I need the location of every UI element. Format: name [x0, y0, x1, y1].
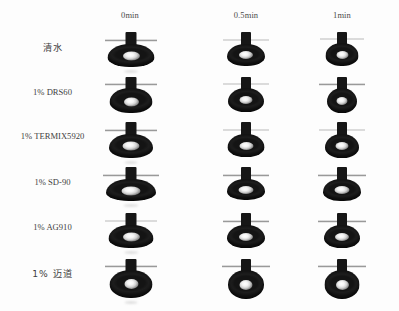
- droplet-highlight: [123, 52, 140, 61]
- droplet-body: [228, 270, 264, 299]
- droplet-body: [227, 44, 265, 66]
- row-label-2: 1% TERMIX5920: [0, 131, 105, 141]
- droplet-cell-inner: [105, 117, 157, 157]
- droplet-cell: [105, 208, 157, 248]
- row-label-1: 1% DRS60: [0, 87, 105, 97]
- droplet-body: [228, 134, 265, 157]
- row-label-0: 清水: [0, 40, 105, 54]
- droplet-body: [109, 225, 154, 248]
- droplet-cell-inner: [223, 162, 269, 202]
- droplet-highlight: [336, 51, 348, 59]
- droplet-highlight: [123, 232, 140, 241]
- droplet-cell-inner: [318, 162, 366, 202]
- droplet-highlight: [124, 97, 139, 106]
- droplet-cell: [103, 162, 159, 202]
- droplet-cell-inner: [223, 117, 269, 157]
- droplet-cell: [223, 72, 269, 112]
- droplet-cell: [222, 255, 270, 297]
- droplet-body: [228, 88, 264, 112]
- droplet-highlight: [335, 233, 349, 241]
- droplet-body: [324, 225, 360, 248]
- droplet-cell: [318, 208, 366, 248]
- droplet-cell: [319, 72, 365, 112]
- droplet-cell: [223, 162, 269, 202]
- droplet-highlight: [239, 233, 253, 241]
- droplet-cell-inner: [320, 26, 364, 66]
- droplet-highlight: [123, 142, 140, 151]
- droplet-body: [106, 179, 156, 201]
- droplet-body: [110, 88, 153, 113]
- droplet-cell: [319, 117, 365, 157]
- droplet-cell-inner: [222, 255, 270, 297]
- droplet-body: [108, 44, 155, 67]
- droplet-body: [326, 43, 359, 66]
- droplet-highlight: [239, 186, 254, 194]
- droplet-cell: [223, 208, 269, 248]
- droplet-body: [323, 179, 361, 201]
- droplet-highlight: [335, 186, 350, 194]
- droplet-body: [110, 270, 153, 298]
- droplet-cell-inner: [223, 26, 269, 66]
- droplet-contact-angle-figure: 0min0.5min1min 清水1% DRS601% TERMIX59201%…: [0, 0, 399, 311]
- droplet-body: [325, 134, 359, 158]
- droplet-highlight: [240, 280, 253, 290]
- droplet-cell: [318, 162, 366, 202]
- droplet-shadow-smear: [124, 204, 139, 207]
- droplet-cell-inner: [103, 162, 159, 202]
- droplet-shadow-smear: [125, 301, 138, 304]
- row-label-5: 1% 迈道: [0, 266, 105, 280]
- droplet-cell-inner: [105, 26, 157, 66]
- droplet-body: [327, 88, 357, 113]
- droplet-cell: [223, 117, 269, 157]
- droplet-cell: [105, 26, 157, 66]
- droplet-cell-inner: [319, 72, 365, 112]
- column-header-1: 0.5min: [234, 10, 258, 20]
- row-label-4: 1% AG910: [0, 222, 105, 232]
- droplet-highlight: [336, 280, 349, 290]
- droplet-cell: [105, 117, 157, 157]
- droplet-cell-inner: [105, 208, 157, 248]
- droplet-shadow-smear: [124, 251, 138, 254]
- row-label-3: 1% SD-90: [0, 177, 105, 187]
- droplet-highlight: [239, 51, 253, 59]
- droplet-body: [325, 270, 360, 299]
- droplet-body: [109, 134, 153, 158]
- droplet-highlight: [336, 142, 349, 150]
- droplet-cell-inner: [318, 208, 366, 248]
- droplet-cell: [223, 26, 269, 66]
- droplet-cell: [318, 255, 366, 297]
- droplet-cell: [105, 72, 157, 112]
- droplet-cell: [320, 26, 364, 66]
- droplet-cell-inner: [223, 72, 269, 112]
- droplet-body: [227, 225, 265, 248]
- droplet-body: [227, 179, 265, 200]
- column-header-0: 0min: [121, 10, 139, 20]
- droplet-cell-inner: [105, 72, 157, 112]
- column-header-2: 1min: [333, 10, 351, 20]
- droplet-cell-inner: [319, 117, 365, 157]
- droplet-cell-inner: [105, 255, 157, 297]
- droplet-cell: [105, 255, 157, 297]
- droplet-highlight: [124, 279, 138, 289]
- droplet-highlight: [240, 96, 253, 104]
- droplet-cell-inner: [318, 255, 366, 297]
- droplet-highlight: [122, 186, 141, 195]
- droplet-cell-inner: [223, 208, 269, 248]
- droplet-highlight: [337, 97, 348, 105]
- droplet-highlight: [239, 142, 253, 150]
